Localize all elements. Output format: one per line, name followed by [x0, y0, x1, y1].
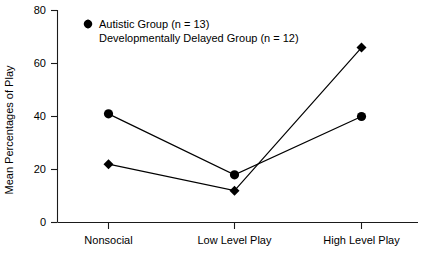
- y-tick-label-20: 20: [34, 163, 46, 175]
- y-axis-title: Mean Percentages of Play: [3, 65, 15, 195]
- y-tick-label-0: 0: [40, 216, 46, 228]
- y-tick-label-60: 60: [34, 57, 46, 69]
- diamond-marker-icon: [84, 19, 93, 29]
- series-markers-autistic-group: [104, 109, 366, 179]
- data-point: [104, 109, 113, 118]
- legend-label-developmentally-delayed-group: Developmentally Delayed Group (n = 12): [99, 32, 299, 44]
- legend-label-autistic-group: Autistic Group (n = 13): [99, 18, 209, 30]
- data-point: [357, 112, 366, 121]
- series-line-autistic-group: [109, 114, 362, 175]
- chart-container: 0 20 40 60 80 Mean Percentages of Play N…: [0, 0, 432, 261]
- chart-legend: Autistic Group (n = 13) Developmentally …: [84, 18, 299, 44]
- x-category-label-low-level-play: Low Level Play: [198, 234, 272, 246]
- x-category-label-high-level-play: High Level Play: [323, 234, 400, 246]
- line-chart: 0 20 40 60 80 Mean Percentages of Play N…: [0, 0, 432, 261]
- y-tick-label-40: 40: [34, 110, 46, 122]
- y-tick-label-80: 80: [34, 4, 46, 16]
- data-point: [230, 170, 239, 179]
- x-category-label-nonsocial: Nonsocial: [84, 234, 132, 246]
- data-point: [104, 159, 114, 169]
- series-line-developmentally-delayed-group: [109, 48, 362, 191]
